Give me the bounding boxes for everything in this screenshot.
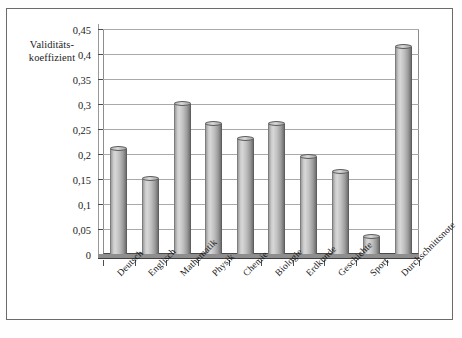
y-axis-tick-label: 0,4 bbox=[78, 50, 91, 61]
bar bbox=[395, 47, 412, 255]
bar bbox=[142, 179, 159, 254]
gridline bbox=[103, 54, 419, 55]
bar bbox=[332, 172, 349, 255]
bar-cap bbox=[142, 176, 159, 181]
y-axis-tick-label: 0,3 bbox=[78, 100, 91, 111]
gridline bbox=[103, 154, 419, 155]
y-axis-tick: 0,25 bbox=[98, 129, 103, 130]
bar bbox=[268, 124, 285, 254]
plot-area: 00,050,10,150,20,250,30,350,40,45 Deutsc… bbox=[103, 29, 419, 254]
y-axis-tick-label: 0,2 bbox=[78, 150, 91, 161]
gridline bbox=[103, 129, 419, 130]
y-axis-tick: 0,45 bbox=[98, 29, 103, 30]
y-axis-tick: 0,2 bbox=[98, 154, 103, 155]
bar-cap bbox=[237, 136, 254, 141]
chart-figure: Validitäts- koeffizient 00,050,10,150,20… bbox=[0, 0, 462, 338]
bar bbox=[205, 124, 222, 254]
y-axis-tick: 0,15 bbox=[98, 179, 103, 180]
bar-cap bbox=[110, 146, 127, 151]
x-axis-tick bbox=[103, 260, 104, 266]
y-axis-tick: 0,1 bbox=[98, 204, 103, 205]
y-axis-tick: 0,3 bbox=[98, 104, 103, 105]
bar bbox=[300, 157, 317, 255]
y-axis-tick-label: 0,35 bbox=[73, 75, 91, 86]
gridline bbox=[103, 29, 419, 30]
y-axis-tick: 0,35 bbox=[98, 79, 103, 80]
y-axis-tick-label: 0 bbox=[86, 250, 91, 261]
y-axis-tick-label: 0,45 bbox=[73, 25, 91, 36]
bar-cap bbox=[363, 234, 380, 239]
y-axis-tick: 0,05 bbox=[98, 229, 103, 230]
gridline bbox=[103, 79, 419, 80]
y-axis-tick: 0,4 bbox=[98, 54, 103, 55]
y-axis-tick-label: 0,1 bbox=[78, 200, 91, 211]
y-axis-tick-label: 0,15 bbox=[73, 175, 91, 186]
bar bbox=[174, 104, 191, 254]
bar bbox=[237, 139, 254, 254]
bar-cap bbox=[174, 101, 191, 106]
bar-cap bbox=[300, 154, 317, 159]
bar-cap bbox=[205, 121, 222, 126]
bar-cap bbox=[395, 44, 412, 49]
bar-cap bbox=[332, 169, 349, 174]
y-axis-tick-label: 0,25 bbox=[73, 125, 91, 136]
bar bbox=[110, 149, 127, 254]
y-axis-tick-label: 0,05 bbox=[73, 225, 91, 236]
bar-cap bbox=[268, 121, 285, 126]
plot-depth-left-edge bbox=[98, 24, 103, 255]
gridline bbox=[103, 104, 419, 105]
